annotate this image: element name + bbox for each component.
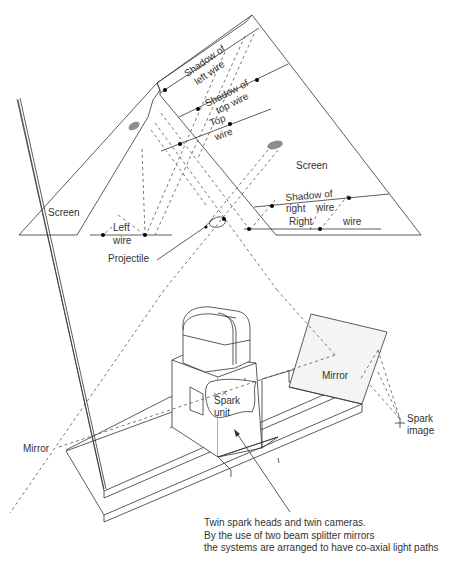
spark-image-cross: [395, 418, 405, 428]
label-screen-right: Screen: [296, 160, 328, 171]
label-spark-image-1: Spark: [407, 413, 433, 424]
caption-line-2: By the use of two beam splitter mirrors: [204, 530, 439, 543]
label-spark-unit-2: unit: [214, 407, 230, 418]
label-right-wire-2: wire: [343, 216, 361, 227]
label-shadow-right-wire-3: wire: [316, 202, 334, 213]
camera-head: [183, 307, 250, 372]
label-right-wire-1: Right: [289, 216, 312, 227]
caption-line-1: Twin spark heads and twin cameras.: [204, 517, 439, 530]
caption-line-3: the systems are arranged to have co-axia…: [204, 542, 439, 555]
label-shadow-right-wire-2: right: [286, 203, 305, 214]
shadow-blobs: [127, 120, 284, 151]
label-projectile: Projectile: [108, 253, 149, 264]
label-spark-unit-1: Spark: [214, 395, 240, 406]
label-screen-left: Screen: [48, 207, 80, 218]
label-spark-image-2: image: [407, 425, 434, 436]
diagram-drawing: [0, 0, 452, 570]
label-mirror-left: Mirror: [23, 443, 49, 454]
label-mirror-right: Mirror: [322, 370, 348, 381]
label-left-wire-2: wire: [113, 235, 131, 246]
label-left-wire-1: Left: [113, 222, 130, 233]
diagram-canvas: Screen Screen Shadow of left wire Shadow…: [0, 0, 452, 570]
caption: Twin spark heads and twin cameras. By th…: [204, 517, 439, 555]
